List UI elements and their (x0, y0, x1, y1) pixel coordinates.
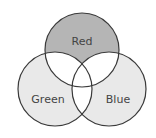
label-green: Green (31, 93, 64, 106)
label-red: Red (72, 35, 93, 48)
label-blue: Blue (106, 93, 131, 106)
venn-diagram: Red Green Blue (0, 0, 156, 138)
